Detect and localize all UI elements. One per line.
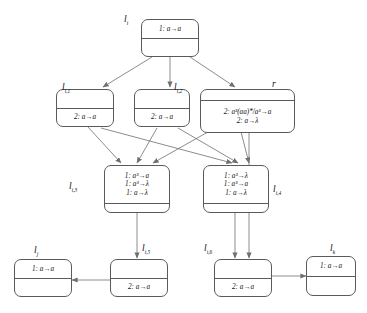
node-li-text: 1: a→a — [159, 25, 181, 33]
edge-li-li1 — [103, 57, 152, 87]
node-tag-li4: li,4 — [273, 184, 281, 196]
node-li4[interactable]: 1: a³→λ 1: a³→a 1: a→λ — [203, 165, 269, 213]
node-tag-li1: li,1 — [62, 82, 70, 94]
node-li[interactable]: 1: a→a — [141, 19, 199, 57]
node-tag-r: r — [272, 79, 276, 89]
node-li6-bottom-cell: 2: a→a — [215, 279, 271, 297]
node-lk[interactable]: 1: a→a — [306, 256, 356, 296]
node-li4-top-cell: 1: a³→λ 1: a³→a 1: a→λ — [204, 166, 268, 204]
node-lj-top-cell: 1: a→a — [15, 260, 71, 279]
node-r-text: 2: a³(aa)*/a³→a 2: a→λ — [224, 108, 272, 124]
node-li5-text: 2: a→a — [128, 283, 150, 291]
node-lk-bottom-cell — [307, 277, 355, 296]
node-tag-li6: li,6 — [204, 243, 212, 255]
node-li5-bottom-cell: 2: a→a — [111, 279, 167, 297]
node-r-bottom-cell: 2: a³(aa)*/a³→a 2: a→λ — [201, 101, 294, 132]
node-li6[interactable]: 2: a→a — [214, 259, 272, 297]
edge-li1-li3 — [88, 127, 121, 163]
node-li1[interactable]: 2: a→a — [56, 89, 114, 127]
node-li5-top-cell — [111, 260, 167, 279]
node-lj-text: 1: a→a — [32, 265, 54, 273]
edge-r-li3 — [153, 128, 215, 163]
node-li3-text: 1: a³→a 1: a³→λ 1: a→λ — [125, 172, 149, 196]
node-li5[interactable]: 2: a→a — [110, 259, 168, 297]
node-li3-bottom-cell — [105, 204, 169, 212]
node-li6-top-cell — [215, 260, 271, 279]
edge-li2-li4 — [178, 128, 238, 163]
node-li2-bottom-cell: 2: a→a — [135, 109, 189, 127]
node-li2-text: 2: a→a — [151, 113, 173, 121]
node-li2[interactable]: 2: a→a — [134, 89, 190, 127]
node-li1-bottom-cell: 2: a→a — [57, 109, 113, 127]
node-li3[interactable]: 1: a³→a 1: a³→λ 1: a→λ — [104, 165, 170, 213]
node-tag-li5: li,5 — [142, 243, 150, 255]
node-tag-li3: li,3 — [69, 181, 77, 193]
node-tag-lj: lj — [34, 245, 38, 257]
node-li6-text: 2: a→a — [232, 283, 254, 291]
node-li1-text: 2: a→a — [74, 113, 96, 121]
node-lk-text: 1: a→a — [320, 262, 342, 270]
node-li4-text: 1: a³→λ 1: a³→a 1: a→λ — [224, 172, 248, 196]
node-r[interactable]: 2: a³(aa)*/a³→a 2: a→λ — [200, 89, 295, 133]
node-li-bottom-cell — [142, 39, 198, 57]
node-r-top-cell — [201, 90, 294, 101]
node-li4-bottom-cell — [204, 204, 268, 212]
diagram-canvas: li 1: a→a li,1 2: a→a li,2 2: a→a r — [0, 0, 367, 313]
edge-r-li4 — [240, 128, 249, 163]
node-lj[interactable]: 1: a→a — [14, 259, 72, 297]
edge-li2-li3 — [137, 128, 157, 163]
node-lj-bottom-cell — [15, 279, 71, 297]
node-lk-top-cell: 1: a→a — [307, 257, 355, 277]
node-tag-lk: lk — [330, 243, 335, 255]
node-li-top-cell: 1: a→a — [142, 20, 198, 39]
node-li3-top-cell: 1: a³→a 1: a³→λ 1: a→λ — [105, 166, 169, 204]
edge-li1-li4 — [101, 128, 232, 163]
edge-li-r — [190, 57, 235, 87]
node-tag-li: li — [124, 14, 128, 26]
node-tag-li2: li,2 — [174, 82, 182, 94]
